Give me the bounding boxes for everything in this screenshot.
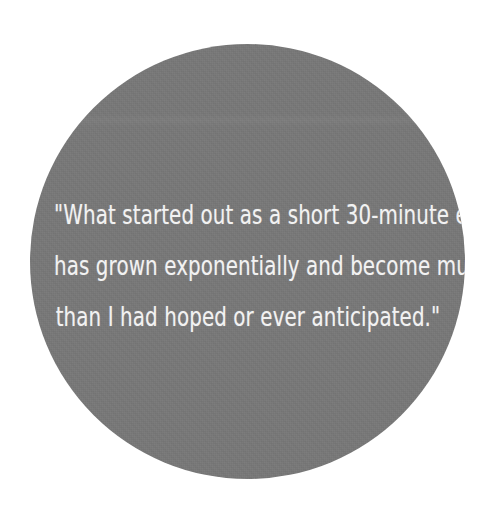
gray-circle-badge: "What started out as a short 30-minute e… [30,44,465,479]
quote-line-3: than I had hoped or ever anticipated." [54,292,442,343]
quote-text-block: "What started out as a short 30-minute e… [54,190,442,342]
quote-line-1: "What started out as a short 30-minute e… [54,190,442,241]
image-canvas: "What started out as a short 30-minute e… [0,0,488,520]
quote-line-2: has grown exponentially and become much … [54,241,442,292]
